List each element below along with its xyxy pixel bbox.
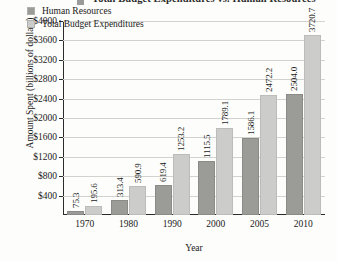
bar-value-label: 3720.7 — [307, 7, 317, 31]
legend-label-human-resources: Human Resources — [42, 6, 111, 16]
bar: 75.3 — [67, 211, 84, 215]
chart-figure: Total Budget Expenditures vs. Human Reso… — [0, 0, 337, 261]
x-tick-label: 2010 — [294, 219, 313, 229]
bar-group: 313.4590.9 — [111, 21, 146, 215]
y-tick-label: $1600 — [33, 132, 57, 142]
y-tick-label: $400 — [38, 191, 57, 201]
x-axis-title: Year — [63, 243, 325, 253]
bar-value-label: 313.4 — [115, 177, 125, 197]
x-tick-label: 1980 — [119, 219, 138, 229]
chart-legend: Human Resources Total Budget Expenditure… — [27, 6, 144, 32]
legend-label-total-budget: Total Budget Expenditures — [42, 19, 144, 29]
bar-value-label: 1115.5 — [202, 134, 212, 157]
bar-value-label: 619.4 — [158, 162, 168, 182]
y-tick-label: $800 — [38, 171, 57, 181]
bar-value-label: 2472.2 — [264, 68, 274, 92]
bar: 195.6 — [85, 206, 102, 215]
title-bullet-icon — [77, 0, 84, 5]
bar: 1789.1 — [216, 128, 233, 215]
x-tick-label: 2000 — [206, 219, 225, 229]
bar-group: 1586.12472.2 — [242, 21, 277, 215]
y-tick-label: $2000 — [33, 113, 57, 123]
bar: 313.4 — [111, 200, 128, 215]
legend-swatch-icon-total-budget — [27, 20, 35, 28]
x-tick-label: 1990 — [163, 219, 182, 229]
bar: 1115.5 — [198, 161, 215, 215]
bar-value-label: 75.3 — [71, 193, 81, 208]
bar: 2504.0 — [286, 94, 303, 215]
bar: 590.9 — [129, 186, 146, 215]
y-tick-label: $3600 — [33, 35, 57, 45]
bar-value-label: 1586.1 — [246, 111, 256, 135]
bar: 619.4 — [155, 185, 172, 215]
bar-value-label: 195.6 — [89, 183, 99, 203]
plot-area: $400$800$1200$1600$2000$2400$2800$3200$3… — [63, 21, 325, 215]
bar-value-label: 590.9 — [133, 164, 143, 184]
bar-series-container: 75.3195.6313.4590.9619.41253.21115.51789… — [63, 21, 325, 215]
legend-swatch-icon-human-resources — [27, 7, 35, 15]
bar-group: 1115.51789.1 — [198, 21, 233, 215]
bar-value-label: 1789.1 — [220, 101, 230, 125]
bar-group: 75.3195.6 — [67, 21, 102, 215]
x-tick-label: 2005 — [250, 219, 269, 229]
bar: 3720.7 — [304, 35, 321, 215]
bar: 1253.2 — [173, 154, 190, 215]
bar-group: 619.41253.2 — [155, 21, 190, 215]
bar-value-label: 1253.2 — [176, 127, 186, 151]
bar-group: 2504.03720.7 — [286, 21, 321, 215]
legend-item-human-resources: Human Resources — [27, 6, 144, 16]
bar: 2472.2 — [260, 95, 277, 215]
y-tick-label: $2800 — [33, 74, 57, 84]
y-tick-label: $3200 — [33, 55, 57, 65]
y-tick-label: $2400 — [33, 94, 57, 104]
legend-item-total-budget: Total Budget Expenditures — [27, 19, 144, 29]
x-tick-label: 1970 — [75, 219, 94, 229]
y-tick-label: $1200 — [33, 152, 57, 162]
bar-value-label: 2504.0 — [289, 66, 299, 90]
bar: 1586.1 — [242, 138, 259, 215]
chart-title: Total Budget Expenditures vs. Human Reso… — [92, 0, 316, 4]
